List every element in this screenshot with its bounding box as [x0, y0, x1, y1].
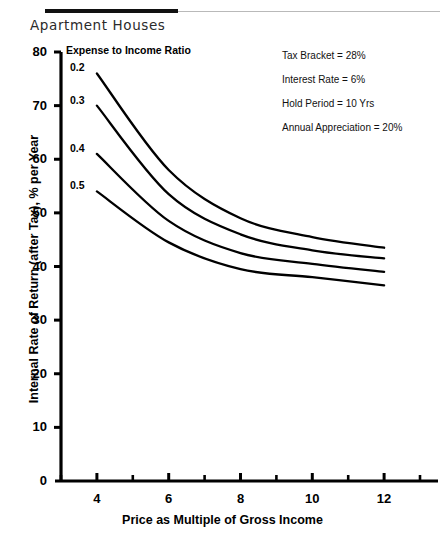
- y-tick-label: 30: [13, 313, 47, 326]
- x-tick-label: 6: [154, 492, 184, 505]
- x-tick-label: 12: [369, 492, 399, 505]
- series-label-0-4: 0.4: [70, 142, 85, 154]
- y-tick-label: 50: [13, 206, 47, 219]
- annotation-hold-period: Hold Period = 10 Yrs: [282, 98, 402, 109]
- y-tick-label: 40: [13, 260, 47, 273]
- annotation-tax-bracket: Tax Bracket = 28%: [282, 50, 402, 61]
- chart-page: Apartment Houses Internal Rate of Return…: [0, 0, 445, 544]
- y-tick-label: 60: [13, 152, 47, 165]
- x-tick-label: 10: [297, 492, 327, 505]
- y-tick-label: 20: [13, 367, 47, 380]
- y-tick-label: 0: [13, 474, 47, 487]
- series-label-0-3: 0.3: [70, 94, 85, 106]
- y-tick-label: 10: [13, 420, 47, 433]
- legend-title: Expense to Income Ratio: [66, 44, 191, 56]
- annotation-interest-rate: Interest Rate = 6%: [282, 74, 402, 85]
- series-curve-0-5: [97, 191, 384, 285]
- series-label-0-5: 0.5: [70, 179, 85, 191]
- annotation-annual-appreciation: Annual Appreciation = 20%: [282, 122, 402, 133]
- annotation-block: Tax Bracket = 28% Interest Rate = 6% Hol…: [282, 50, 402, 146]
- y-tick-label: 80: [13, 45, 47, 58]
- series-label-0-2: 0.2: [70, 61, 85, 73]
- x-tick-label: 8: [226, 492, 256, 505]
- x-axis-title: Price as Multiple of Gross Income: [0, 513, 445, 527]
- y-tick-label: 70: [13, 99, 47, 112]
- x-tick-label: 4: [82, 492, 112, 505]
